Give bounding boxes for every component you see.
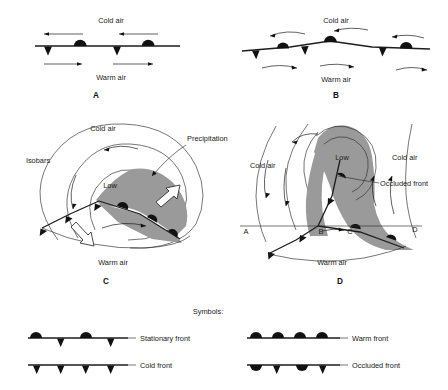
panel-c-precipitation-leader [152,145,186,176]
panel-b-cold-air-label: Cold air [323,16,349,25]
panel-c-warm-air-label: Warm air [98,258,128,267]
panel-d-letter: D [337,277,343,286]
panel-b: Cold air Warm a [242,16,430,100]
legend-item-stationary-front: Stationary front [28,332,190,347]
legend-item-cold-front: Cold front [28,361,172,374]
panel-d-isobar-1 [256,126,276,242]
legend-item-warm-front: Warm front [247,332,388,343]
panel-a-cold-triangles [44,47,121,56]
cold-front-label: Cold front [140,361,172,370]
panel-d: Cold air Cold air Low Occluded front A B… [240,124,428,286]
panel-a-warm-air-label: Warm air [96,73,126,82]
panel-c-cold-front-motion-arrow [71,222,94,246]
stationary-front-triangles [57,339,114,347]
panel-d-cold-front-barbs [268,235,307,260]
panel-d-point-d-label: D [412,225,417,234]
panel-c-letter: C [103,277,109,286]
panel-d-point-c-label: C [347,227,353,236]
panel-c-low-label: Low [103,181,117,190]
warm-front-semicircles [250,332,328,338]
figure-canvas: Cold air Warm air A Cold air [0,0,448,390]
panel-b-letter: B [333,91,339,100]
legend-heading: Symbols: [193,307,223,316]
panel-c-cold-air-label: Cold air [90,124,116,133]
panel-c-precipitation-label: Precipitation [187,134,228,143]
panel-d-cold-air-left-label: Cold air [250,161,276,170]
warm-front-label: Warm front [352,334,388,343]
panel-a: Cold air Warm air A [35,16,180,100]
panel-b-warm-air-label: Warm air [321,75,351,84]
frontal-cyclone-figure: Cold air Warm air A Cold air [0,0,448,390]
panel-d-point-a-label: A [244,227,249,236]
cold-front-triangles [33,366,114,374]
panel-c-isobars-label: Isobars [26,156,51,165]
panel-d-point-b-label: B [319,227,324,236]
panel-d-low-label: Low [335,153,349,162]
panel-c: Cold air Isobars Precipitation Low Warm … [26,124,228,286]
panel-d-occluded-front-label: Occluded front [380,179,428,188]
stationary-front-label: Stationary front [140,334,190,343]
panel-a-cold-air-label: Cold air [98,16,124,25]
panel-a-letter: A [93,91,99,100]
panel-b-cold-air-arrows [270,28,424,38]
panel-d-warm-air-label: Warm air [317,258,347,267]
stationary-front-semicircles [30,332,92,338]
panel-a-cold-air-arrows [44,32,158,36]
legend: Symbols: Stationary front [28,307,400,374]
panel-d-cold-front-line [268,226,318,254]
panel-a-warm-air-arrows [44,62,153,66]
legend-item-occluded-front: Occluded front [247,361,400,374]
panel-b-warm-air-arrows [262,64,427,71]
occluded-front-label: Occluded front [352,361,400,370]
panel-d-cold-air-right-label: Cold air [392,153,418,162]
panel-a-warm-semicircles [74,40,154,46]
